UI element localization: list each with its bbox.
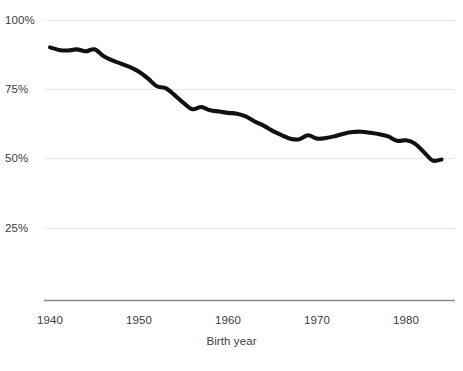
gridlines xyxy=(44,21,455,229)
x-tick-label-1960: 1960 xyxy=(215,315,241,327)
line-chart: 100% 75% 50% 25% 1940 1950 1960 1970 198… xyxy=(0,0,463,371)
x-axis-title: Birth year xyxy=(0,336,463,348)
y-tick-label-75: 75% xyxy=(0,84,44,96)
x-tick-label-1940: 1940 xyxy=(37,315,63,327)
x-tick-label-1970: 1970 xyxy=(304,315,330,327)
x-tick-label-1950: 1950 xyxy=(126,315,152,327)
x-tick-label-1980: 1980 xyxy=(393,315,419,327)
y-tick-label-25: 25% xyxy=(0,223,44,235)
y-tick-label-50: 50% xyxy=(0,153,44,165)
data-line-series-share xyxy=(50,47,442,161)
y-tick-label-100: 100% xyxy=(0,15,44,27)
